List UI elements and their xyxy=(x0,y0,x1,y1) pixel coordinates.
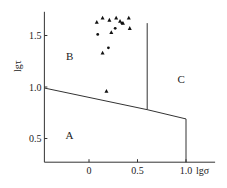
triangle-marker xyxy=(127,16,131,20)
boundary-line xyxy=(44,88,186,119)
dot-marker xyxy=(121,22,124,25)
region-label-c: C xyxy=(177,73,184,85)
region-label-a: A xyxy=(66,129,74,141)
y-tick-label: 1.0 xyxy=(29,82,42,93)
y-tick-label: 0.5 xyxy=(29,133,42,144)
y-tick-label: 1.5 xyxy=(29,30,42,41)
chart: 00.51.00.51.01.5lgσlgτABC xyxy=(0,0,227,188)
data-points xyxy=(95,16,132,93)
x-tick-label: 0 xyxy=(87,165,92,176)
dot-marker xyxy=(114,27,117,30)
triangle-marker xyxy=(104,89,108,93)
dot-marker xyxy=(96,33,99,36)
dot-marker xyxy=(107,46,110,49)
triangle-marker xyxy=(114,16,118,20)
region-label-b: B xyxy=(66,50,73,62)
x-tick-label: 0.5 xyxy=(131,165,144,176)
triangle-marker xyxy=(101,51,105,55)
labels: 00.51.00.51.01.5lgσlgτABC xyxy=(12,30,210,176)
triangle-marker xyxy=(95,20,99,24)
triangle-marker xyxy=(101,16,105,20)
triangle-marker xyxy=(107,18,111,22)
region-boundaries xyxy=(44,23,186,162)
x-tick-label: 1.0 xyxy=(180,165,193,176)
x-axis-label: lgσ xyxy=(196,165,210,176)
y-axis-label: lgτ xyxy=(12,60,23,72)
triangle-marker xyxy=(128,26,132,30)
triangle-marker xyxy=(109,30,113,34)
